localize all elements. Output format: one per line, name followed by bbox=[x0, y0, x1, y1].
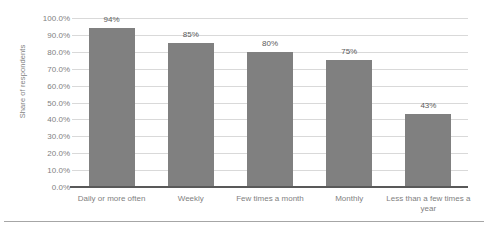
bar-rect[interactable] bbox=[405, 114, 451, 187]
figure-bottom-rule bbox=[4, 221, 484, 222]
bar-group: 43% Less than a few times a year bbox=[389, 0, 468, 230]
bar-value-label: 43% bbox=[420, 101, 436, 110]
y-tick-label: 20.0% bbox=[4, 149, 70, 158]
y-tick-label: 0.0% bbox=[4, 183, 70, 192]
bar-rect[interactable] bbox=[247, 52, 293, 187]
y-tick-label: 90.0% bbox=[4, 30, 70, 39]
y-tick-label: 100.0% bbox=[4, 14, 70, 23]
bar-group: 85% Weekly bbox=[151, 0, 230, 230]
bar-group: 75% Monthly bbox=[310, 0, 389, 230]
bar-rect[interactable] bbox=[89, 28, 135, 187]
y-tick-label: 10.0% bbox=[4, 166, 70, 175]
bar-value-label: 75% bbox=[341, 47, 357, 56]
y-tick-label: 50.0% bbox=[4, 98, 70, 107]
y-tick-label: 40.0% bbox=[4, 115, 70, 124]
bar-rect[interactable] bbox=[326, 60, 372, 187]
y-tick-label: 60.0% bbox=[4, 81, 70, 90]
x-axis-line bbox=[70, 186, 468, 188]
x-tick-label: Weekly bbox=[145, 194, 237, 204]
y-tick-label: 30.0% bbox=[4, 132, 70, 141]
bar-value-label: 94% bbox=[104, 15, 120, 24]
bar-value-label: 80% bbox=[262, 39, 278, 48]
x-tick-label: Daily or more often bbox=[66, 194, 158, 204]
x-tick-label: Few times a month bbox=[224, 194, 316, 204]
bar-rect[interactable] bbox=[168, 43, 214, 187]
y-tick-label: 70.0% bbox=[4, 64, 70, 73]
bar-group: 80% Few times a month bbox=[230, 0, 309, 230]
y-axis-tick-labels: 100.0% 90.0% 80.0% 70.0% 60.0% 50.0% 40.… bbox=[0, 0, 70, 230]
bars-layer: 94% Daily or more often 85% Weekly 80% F… bbox=[72, 0, 468, 230]
bar-chart: Share of respondents 100.0% 90.0% 80.0% … bbox=[0, 0, 488, 230]
bar-value-label: 85% bbox=[183, 30, 199, 39]
x-tick-label: Monthly bbox=[303, 194, 395, 204]
x-tick-label: Less than a few times a year bbox=[382, 194, 474, 214]
bar-group: 94% Daily or more often bbox=[72, 0, 151, 230]
y-tick-label: 80.0% bbox=[4, 47, 70, 56]
